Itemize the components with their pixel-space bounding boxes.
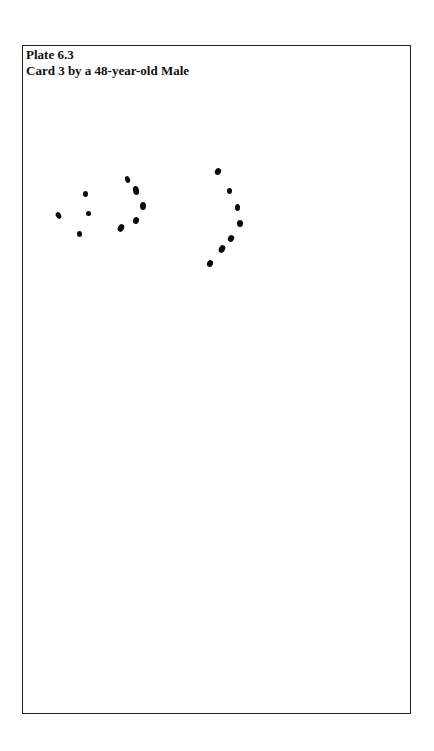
drawn-dot xyxy=(235,204,240,211)
drawn-dot xyxy=(83,191,88,197)
plate-number: Plate 6.3 xyxy=(26,47,189,63)
drawn-dot xyxy=(140,202,146,210)
plate-title: Card 3 by a 48-year-old Male xyxy=(26,63,189,79)
plate-frame xyxy=(22,45,411,714)
drawn-dot xyxy=(77,231,82,237)
plate-caption: Plate 6.3 Card 3 by a 48-year-old Male xyxy=(26,47,189,79)
drawn-dot xyxy=(237,220,243,227)
drawn-dot xyxy=(86,211,91,216)
drawn-dot xyxy=(227,188,232,194)
